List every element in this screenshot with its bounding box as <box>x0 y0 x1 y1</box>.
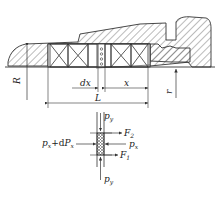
label-x: x <box>124 78 129 88</box>
label-px-dpx: px+dPx <box>42 138 75 149</box>
seal-diagram: R r dx x L py F2 px+dPx px F1 py <box>0 0 223 197</box>
label-py-bottom: py <box>104 174 114 186</box>
label-r: r <box>164 89 174 94</box>
element-slice-dx <box>98 44 105 67</box>
element-block <box>97 133 104 155</box>
label-F1: F1 <box>119 150 130 161</box>
label-px-right: px <box>129 139 139 150</box>
label-R: R <box>12 77 22 85</box>
label-py-top: py <box>104 111 114 123</box>
label-dx: dx <box>80 78 91 88</box>
label-F2: F2 <box>123 128 134 139</box>
label-L: L <box>94 93 101 103</box>
